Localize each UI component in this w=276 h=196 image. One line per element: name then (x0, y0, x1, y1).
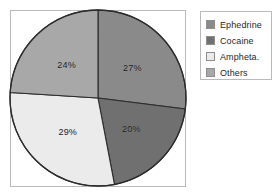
pie-slice-value-label: 29% (58, 127, 77, 137)
legend-item-label: Others (220, 68, 248, 78)
legend-swatch-icon (206, 20, 215, 29)
pie-graphic (9, 9, 187, 188)
legend-item[interactable]: Ephedrine (206, 17, 271, 32)
legend-swatch-icon (206, 68, 215, 77)
pie-slice[interactable] (10, 10, 98, 98)
legend-item-label: Ampheta. (220, 52, 259, 62)
pie-slice-value-label: 27% (123, 63, 142, 73)
legend: EphedrineCocaineAmpheta.Others (200, 11, 272, 80)
pie-slice[interactable] (10, 92, 114, 186)
legend-item[interactable]: Ampheta. (206, 49, 271, 64)
legend-swatch-icon (206, 36, 215, 45)
legend-swatch-icon (206, 52, 215, 61)
legend-item[interactable]: Cocaine (206, 33, 271, 48)
legend-item[interactable]: Others (206, 65, 271, 80)
pie-chart-figure: 27%20%29%24% EphedrineCocaineAmpheta.Oth… (0, 0, 276, 196)
pie-slice[interactable] (98, 10, 186, 109)
legend-item-label: Cocaine (220, 36, 254, 46)
pie-plot-area: 27%20%29%24% (10, 10, 186, 187)
pie-slice-value-label: 20% (122, 124, 141, 134)
pie-slice-value-label: 24% (57, 60, 76, 70)
legend-item-label: Ephedrine (220, 20, 262, 30)
